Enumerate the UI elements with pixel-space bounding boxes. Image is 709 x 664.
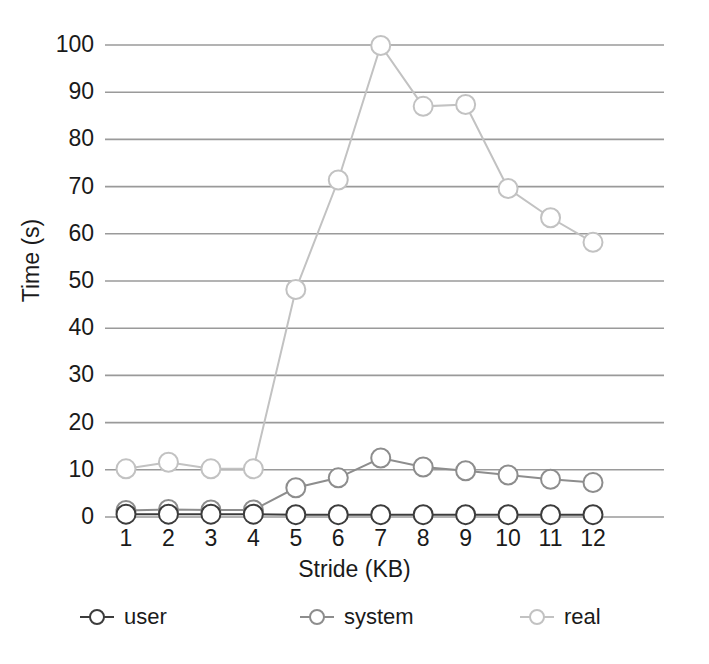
data-point-marker xyxy=(414,97,433,116)
data-point-marker xyxy=(541,505,560,524)
legend-label: user xyxy=(124,604,167,630)
data-point-marker xyxy=(541,208,560,227)
legend-item-user[interactable]: user xyxy=(80,604,167,630)
legend-marker-circle-icon xyxy=(80,606,114,628)
line-chart: Time (s) 0102030405060708090100 12345678… xyxy=(0,0,709,664)
data-point-marker xyxy=(584,505,603,524)
data-point-marker xyxy=(286,478,305,497)
series-system xyxy=(117,449,603,520)
data-point-marker xyxy=(499,505,518,524)
data-point-marker xyxy=(456,505,475,524)
data-point-marker xyxy=(117,459,136,478)
legend-label: real xyxy=(564,604,601,630)
data-point-marker xyxy=(244,459,263,478)
data-point-marker xyxy=(414,505,433,524)
data-point-marker xyxy=(286,505,305,524)
data-point-marker xyxy=(541,470,560,489)
data-point-marker xyxy=(414,457,433,476)
legend-marker-circle-icon xyxy=(520,606,554,628)
legend-marker-circle-icon xyxy=(300,606,334,628)
x-axis-title: Stride (KB) xyxy=(0,556,709,583)
x-axis-title-label: Stride (KB) xyxy=(298,556,410,582)
series-real xyxy=(117,36,603,478)
data-point-marker xyxy=(159,453,178,472)
data-point-marker xyxy=(371,505,390,524)
data-point-marker xyxy=(201,505,220,524)
series-line-real xyxy=(126,45,593,468)
data-point-marker xyxy=(159,505,178,524)
legend-item-system[interactable]: system xyxy=(300,604,414,630)
data-point-marker xyxy=(117,505,136,524)
data-point-marker xyxy=(329,505,348,524)
data-point-marker xyxy=(329,468,348,487)
data-point-marker xyxy=(201,459,220,478)
legend-item-real[interactable]: real xyxy=(520,604,601,630)
chart-legend: usersystemreal xyxy=(0,600,709,640)
data-point-marker xyxy=(371,36,390,55)
data-point-marker xyxy=(456,461,475,480)
data-point-marker xyxy=(371,449,390,468)
series-user xyxy=(117,505,603,524)
data-point-marker xyxy=(329,170,348,189)
data-point-marker xyxy=(244,505,263,524)
legend-label: system xyxy=(344,604,414,630)
data-point-marker xyxy=(584,473,603,492)
data-point-marker xyxy=(286,280,305,299)
data-point-marker xyxy=(584,233,603,252)
data-point-marker xyxy=(499,465,518,484)
x-axis-tick-label: 12 xyxy=(563,527,623,550)
data-point-marker xyxy=(499,179,518,198)
data-point-marker xyxy=(456,95,475,114)
gridlines xyxy=(105,45,664,517)
